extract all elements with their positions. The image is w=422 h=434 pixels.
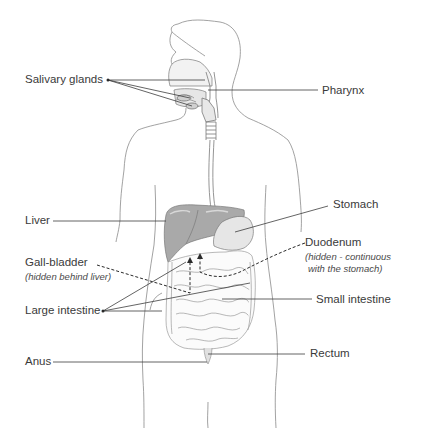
label-pharynx: Pharynx	[322, 84, 364, 97]
label-large-intestine: Large intestine	[25, 304, 100, 317]
label-small-intestine: Small intestine	[316, 293, 391, 306]
note-duodenum-line1: (hidden - continuous	[305, 251, 391, 262]
intestines	[166, 251, 255, 364]
label-salivary-glands: Salivary glands	[25, 73, 103, 86]
label-stomach: Stomach	[333, 198, 378, 211]
note-duodenum-line2: with the stomach)	[308, 263, 382, 274]
label-liver: Liver	[25, 214, 50, 227]
label-duodenum: Duodenum	[305, 236, 361, 249]
label-gall-bladder: Gall-bladder	[25, 256, 88, 269]
digestive-system-diagram: Salivary glands Pharynx Liver Stomach Du…	[0, 0, 422, 434]
label-rectum: Rectum	[310, 347, 350, 360]
body-illustration	[0, 0, 422, 434]
label-anus: Anus	[25, 355, 51, 368]
note-gall-bladder: (hidden behind liver)	[25, 271, 111, 282]
